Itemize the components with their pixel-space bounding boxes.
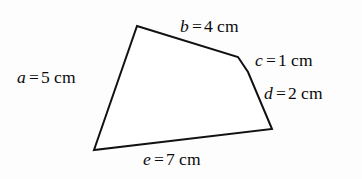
side-label-d: d=2cm	[264, 85, 323, 103]
pentagon-outline	[94, 26, 272, 150]
equals-sign-c: =	[264, 50, 278, 70]
side-label-a: a=5cm	[17, 69, 76, 87]
equals-sign-b: =	[190, 16, 204, 36]
geometry-figure: a=5cm b=4cm c=1cm d=2cm e=7cm	[0, 0, 362, 179]
side-variable-b: b	[180, 16, 190, 36]
side-variable-e: e	[143, 149, 152, 169]
side-value-c: 1	[278, 50, 287, 70]
side-value-d: 2	[288, 83, 297, 103]
side-variable-a: a	[17, 67, 27, 87]
equals-sign-d: =	[274, 83, 288, 103]
side-label-c: c=1cm	[255, 52, 313, 70]
side-unit-d: cm	[297, 83, 323, 103]
side-value-b: 4	[204, 16, 213, 36]
side-value-a: 5	[41, 67, 50, 87]
side-unit-b: cm	[213, 16, 239, 36]
equals-sign-a: =	[27, 67, 41, 87]
side-label-e: e=7cm	[143, 151, 201, 169]
side-value-e: 7	[166, 149, 175, 169]
side-label-b: b=4cm	[180, 18, 239, 36]
side-unit-a: cm	[50, 67, 76, 87]
side-variable-d: d	[264, 83, 274, 103]
side-variable-c: c	[255, 50, 264, 70]
side-unit-e: cm	[175, 149, 201, 169]
equals-sign-e: =	[152, 149, 166, 169]
side-unit-c: cm	[287, 50, 313, 70]
